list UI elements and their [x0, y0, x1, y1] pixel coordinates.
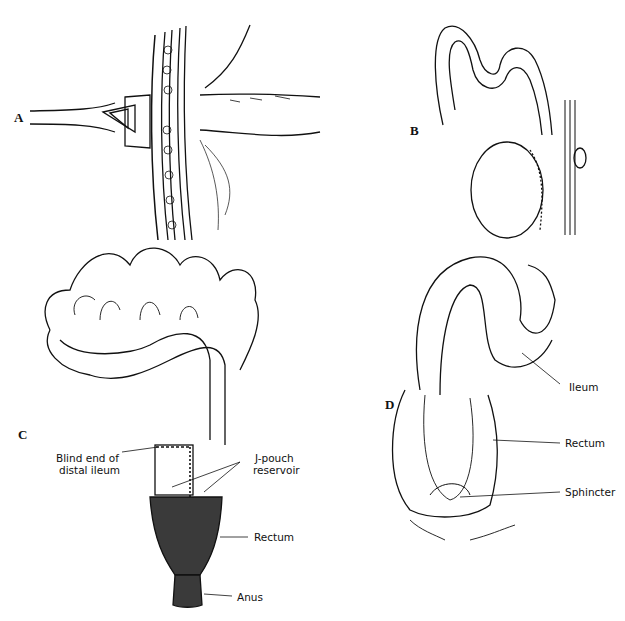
figure-artwork	[0, 0, 625, 621]
leader-ileum	[522, 353, 560, 384]
leader-jpouch-2	[204, 462, 240, 492]
leader-sphincter	[460, 492, 560, 497]
leader-anus	[204, 594, 232, 596]
panel-letter-a: A	[14, 110, 23, 126]
label-blind-end: Blind end of distal ileum	[56, 452, 120, 476]
label-anus: Anus	[237, 591, 263, 603]
label-sphincter: Sphincter	[565, 486, 615, 498]
label-rectum-c: Rectum	[254, 531, 294, 543]
leader-rectum-d	[493, 440, 560, 443]
panel-letter-c: C	[18, 427, 27, 443]
leader-blind-end	[122, 447, 158, 452]
rectum-shape	[150, 497, 222, 575]
panel-a-illustration	[30, 25, 320, 240]
panel-d-illustration	[393, 257, 556, 540]
label-jpouch-reservoir: J-pouch reservoir	[253, 452, 300, 476]
anus-shape	[173, 575, 202, 607]
panel-letter-d: D	[385, 397, 394, 413]
leader-jpouch-1	[172, 462, 240, 487]
panel-b-illustration	[435, 26, 586, 238]
panel-letter-b: B	[410, 123, 419, 139]
label-rectum-d: Rectum	[565, 437, 605, 449]
label-ileum: Ileum	[569, 381, 598, 393]
